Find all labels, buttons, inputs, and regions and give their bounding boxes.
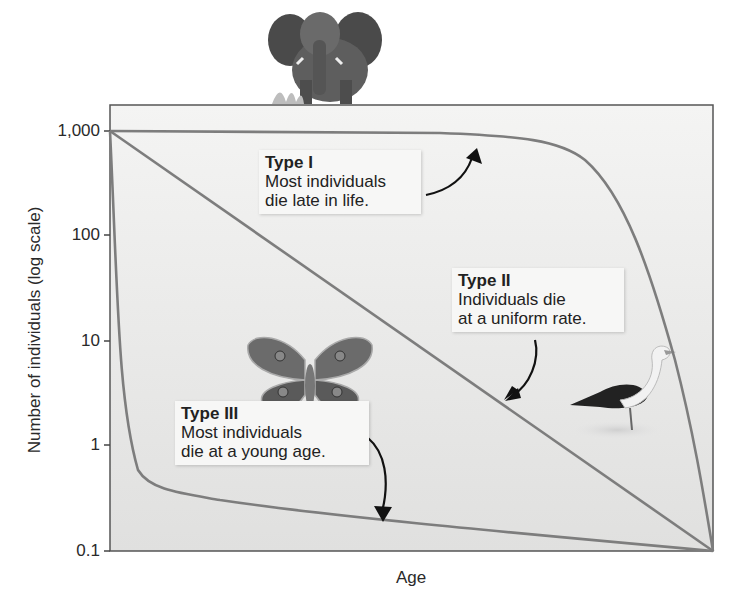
type-ii-callout: Type II Individuals die at a uniform rat… xyxy=(452,268,624,332)
x-axis-label: Age xyxy=(396,568,426,588)
y-axis-ticks xyxy=(104,131,110,551)
elephant-image xyxy=(268,12,382,104)
type-i-title: Type I xyxy=(265,153,415,172)
type-iii-callout: Type III Most individuals die at a young… xyxy=(175,401,369,465)
type-iii-desc-line1: Most individuals xyxy=(181,423,363,442)
type-iii-desc-line2: die at a young age. xyxy=(181,442,363,461)
type-iii-title: Type III xyxy=(181,404,363,423)
y-tick-label: 0.1 xyxy=(20,541,100,561)
y-tick-label: 1,000 xyxy=(20,121,100,141)
type-i-callout: Type I Most individuals die late in life… xyxy=(259,150,421,214)
type-ii-title: Type II xyxy=(458,271,618,290)
type-i-desc-line1: Most individuals xyxy=(265,172,415,191)
survivorship-figure: 1,000 100 10 1 0.1 Number of individuals… xyxy=(0,0,729,610)
type-ii-desc-line2: at a uniform rate. xyxy=(458,309,618,328)
type-i-desc-line2: die late in life. xyxy=(265,191,415,210)
type-ii-desc-line1: Individuals die xyxy=(458,290,618,309)
y-axis-label: Number of individuals (log scale) xyxy=(25,207,45,454)
